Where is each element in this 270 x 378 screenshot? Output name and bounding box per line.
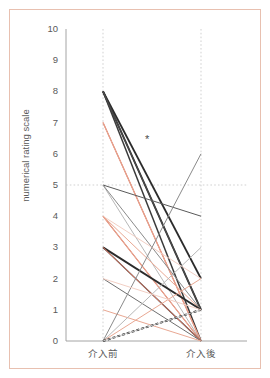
significance-asterisk: * bbox=[145, 134, 149, 145]
slope-line-p13 bbox=[103, 216, 201, 310]
chart-figure: 012345678910 介入前介入後 numerical rating sca… bbox=[0, 0, 270, 378]
y-tick-label-3: 3 bbox=[36, 242, 58, 252]
slope-line-p2 bbox=[103, 91, 201, 278]
y-tick-label-9: 9 bbox=[36, 55, 58, 65]
slope-line-p24 bbox=[103, 279, 201, 310]
y-tick-label-10: 10 bbox=[36, 24, 58, 34]
y-tick-label-8: 8 bbox=[36, 86, 58, 96]
y-axis-title: numerical rating scale bbox=[20, 86, 31, 226]
y-tick-label-1: 1 bbox=[36, 305, 58, 315]
slope-line-p7 bbox=[103, 185, 201, 216]
data-series-group bbox=[103, 91, 201, 341]
slope-line-p19 bbox=[103, 154, 201, 341]
y-tick-label-2: 2 bbox=[36, 274, 58, 284]
x-tick-label-before: 介入前 bbox=[73, 348, 133, 359]
y-tick-label-6: 6 bbox=[36, 149, 58, 159]
y-tick-label-5: 5 bbox=[36, 180, 58, 190]
y-tick-label-0: 0 bbox=[36, 336, 58, 346]
y-tick-label-4: 4 bbox=[36, 211, 58, 221]
x-tick-label-after: 介入後 bbox=[171, 348, 231, 359]
slope-line-p3 bbox=[103, 91, 201, 341]
y-tick-label-7: 7 bbox=[36, 118, 58, 128]
slope-line-p6 bbox=[103, 123, 201, 341]
